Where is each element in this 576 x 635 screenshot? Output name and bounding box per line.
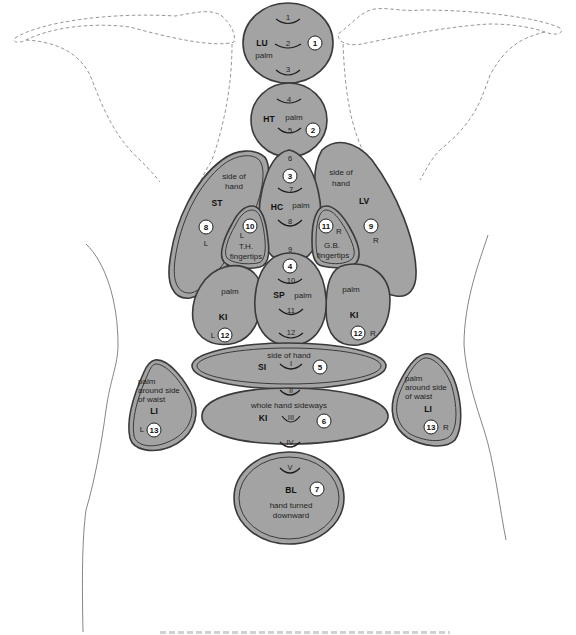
right-scapula-outline	[338, 9, 561, 180]
svg-text:L: L	[140, 425, 145, 434]
zone-LI-right: palm around side of waist LI 13 R	[392, 354, 461, 446]
svg-text:side of: side of	[329, 168, 353, 177]
svg-text:6: 6	[322, 417, 327, 426]
badge-5: 5	[313, 360, 327, 374]
svg-text:HC: HC	[271, 202, 283, 212]
zone-BL: V BL 7 hand turned downward	[234, 452, 344, 544]
svg-text:L: L	[204, 239, 209, 248]
svg-text:SP: SP	[273, 290, 285, 300]
svg-text:BL: BL	[285, 485, 296, 495]
svg-text:KI: KI	[350, 310, 359, 320]
svg-text:palm: palm	[294, 291, 312, 300]
svg-text:palm: palm	[255, 51, 273, 60]
svg-text:palm: palm	[285, 113, 303, 122]
svg-text:R: R	[370, 329, 376, 338]
svg-text:ST: ST	[212, 198, 224, 208]
badge-11: 11	[319, 219, 333, 233]
badge-6: 6	[317, 414, 331, 428]
svg-text:5: 5	[288, 126, 292, 135]
svg-text:R: R	[373, 236, 379, 245]
svg-text:8: 8	[288, 217, 292, 226]
svg-text:HT: HT	[263, 114, 275, 124]
svg-text:V: V	[287, 463, 292, 472]
svg-text:SI: SI	[258, 362, 266, 372]
svg-text:7: 7	[315, 485, 320, 494]
badge-3: 3	[283, 169, 297, 183]
svg-text:12: 12	[354, 329, 363, 338]
svg-text:fingertips: fingertips	[230, 252, 262, 261]
svg-text:palm: palm	[138, 377, 156, 386]
badge-8: 8	[199, 220, 213, 234]
zone-HT: 4 5 HT palm 2	[251, 83, 327, 157]
svg-text:R: R	[336, 227, 342, 236]
svg-text:6: 6	[288, 154, 292, 163]
svg-text:10: 10	[246, 222, 255, 231]
svg-text:around side: around side	[405, 383, 447, 392]
right-body-outline	[464, 235, 506, 540]
svg-text:hand: hand	[332, 179, 350, 188]
svg-text:LI: LI	[150, 406, 158, 416]
svg-text:8: 8	[204, 223, 209, 232]
svg-text:hand: hand	[225, 182, 243, 191]
svg-text:LU: LU	[256, 38, 267, 48]
svg-text:9: 9	[369, 222, 374, 231]
svg-text:palm: palm	[342, 285, 360, 294]
badge-10: 10	[243, 219, 257, 233]
zone-KI-right: palm KI 12 R	[326, 264, 390, 345]
svg-text:L: L	[240, 231, 245, 240]
svg-text:IV: IV	[286, 438, 293, 447]
figure-caption-cutoff	[160, 628, 450, 635]
svg-text:12: 12	[287, 328, 295, 337]
svg-text:palm: palm	[221, 287, 239, 296]
badge-9: 9	[364, 219, 378, 233]
svg-text:T.H.: T.H.	[239, 242, 253, 251]
svg-text:LI: LI	[424, 404, 432, 414]
left-scapula-outline	[14, 12, 234, 182]
svg-text:11: 11	[287, 306, 295, 315]
svg-text:KI: KI	[259, 413, 268, 423]
svg-text:3: 3	[288, 172, 293, 181]
badge-7: 7	[310, 482, 324, 496]
meridian-diagram: side of hand ST 8 L side of hand LV 9 R …	[0, 0, 576, 635]
svg-text:12: 12	[221, 331, 230, 340]
zone-LI-left: palm around side of waist LI L 13	[129, 360, 196, 451]
svg-text:L: L	[211, 331, 216, 340]
badge-4: 4	[283, 259, 297, 273]
svg-text:13: 13	[427, 423, 436, 432]
svg-text:whole hand sideways: whole hand sideways	[250, 401, 327, 410]
svg-text:III: III	[288, 413, 294, 422]
svg-text:II: II	[289, 386, 293, 395]
badge-13-right: 13	[424, 420, 438, 434]
svg-text:downward: downward	[273, 511, 309, 520]
badge-12-right: 12	[351, 326, 365, 340]
svg-text:3: 3	[286, 65, 290, 74]
badge-1: 1	[308, 36, 322, 50]
svg-text:G.B.: G.B.	[324, 241, 340, 250]
svg-text:LV: LV	[359, 196, 370, 206]
zone-KI-center: II whole hand sideways KI III 6 IV	[202, 386, 388, 447]
svg-text:5: 5	[318, 363, 323, 372]
svg-text:fingertips: fingertips	[317, 251, 349, 260]
left-body-outline	[82, 244, 118, 632]
svg-text:4: 4	[287, 95, 291, 104]
svg-text:KI: KI	[219, 312, 228, 322]
svg-text:R: R	[443, 423, 449, 432]
svg-text:10: 10	[287, 276, 295, 285]
svg-text:palm: palm	[292, 201, 310, 210]
svg-text:palm: palm	[405, 374, 423, 383]
svg-text:1: 1	[313, 39, 318, 48]
svg-text:2: 2	[286, 39, 290, 48]
svg-text:around side: around side	[138, 386, 180, 395]
svg-text:of waist: of waist	[138, 395, 166, 404]
svg-text:4: 4	[288, 262, 293, 271]
badge-13-left: 13	[147, 423, 161, 437]
svg-text:2: 2	[311, 126, 316, 135]
svg-text:I: I	[290, 359, 292, 368]
svg-text:1: 1	[286, 13, 290, 22]
svg-text:13: 13	[150, 426, 159, 435]
svg-text:of waist: of waist	[405, 392, 433, 401]
svg-text:side of: side of	[222, 172, 246, 181]
zone-LU: 1 2 3 LU palm 1	[243, 3, 333, 83]
zone-SP: 4 10 SP palm 11 12	[255, 253, 326, 346]
svg-text:7: 7	[289, 185, 293, 194]
